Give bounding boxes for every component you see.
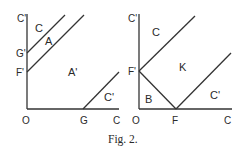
right-tick-f-prime: F' — [128, 66, 136, 77]
left-axis-label-c: C — [113, 115, 120, 126]
left-panel: C' G' F' O G C C A A' C' — [16, 13, 120, 126]
right-region-c: C — [152, 26, 160, 38]
right-tick-f: F — [172, 115, 178, 126]
left-region-c: C — [35, 22, 43, 34]
right-region-k: K — [179, 61, 187, 73]
left-region-a: A — [45, 35, 53, 47]
right-line-from-f-prime-up — [139, 16, 195, 71]
figure-caption: Fig. 2. — [108, 133, 138, 146]
left-tick-f-prime: F' — [16, 67, 24, 78]
left-region-a-prime: A' — [68, 66, 77, 78]
left-region-c-prime: C' — [104, 91, 114, 103]
right-origin-label: O — [132, 115, 140, 126]
left-origin-label: O — [22, 115, 30, 126]
left-line-from-g-prime — [27, 15, 65, 53]
figure-2-diagram: C' G' F' O G C C A A' C' C' F' O F C C K… — [0, 0, 244, 148]
left-tick-g-prime: G' — [16, 48, 26, 59]
left-tick-g: G — [80, 115, 88, 126]
right-panel: C' F' O F C C K B C' — [128, 13, 232, 126]
left-axis-label-c-prime: C' — [17, 13, 26, 24]
right-region-b: B — [145, 93, 152, 105]
right-axis-label-c: C — [224, 115, 231, 126]
right-axis-label-c-prime: C' — [128, 13, 137, 24]
right-region-c-prime: C' — [210, 89, 220, 101]
